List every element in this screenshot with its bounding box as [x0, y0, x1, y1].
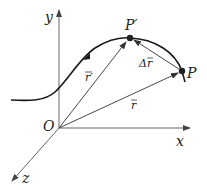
- point-p: [179, 68, 185, 74]
- displacement-diagram: y x z O P′ P r′ r Δr: [0, 0, 207, 190]
- point-p-prime: [127, 35, 133, 41]
- p-prime-label: P′: [124, 17, 138, 33]
- vector-r-prime: [59, 42, 126, 128]
- diagram-canvas: y x z O P′ P r′ r Δr: [0, 0, 207, 190]
- p-label: P: [186, 65, 197, 81]
- trajectory-curve: [11, 38, 185, 101]
- vector-delta-r-label: Δr: [138, 57, 153, 70]
- vector-r-label: r: [131, 99, 137, 112]
- vector-r-prime-label: r′: [85, 71, 93, 84]
- y-axis-label: y: [44, 9, 54, 25]
- x-axis-label: x: [176, 133, 184, 149]
- origin-label: O: [43, 118, 55, 134]
- vector-r: [59, 73, 178, 128]
- z-axis-label: z: [21, 170, 30, 186]
- z-axis: [12, 128, 59, 181]
- trajectory-direction-arrow-icon: [83, 53, 90, 60]
